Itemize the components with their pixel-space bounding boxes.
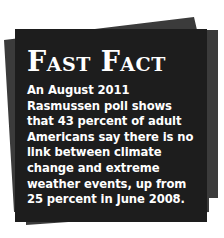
- fast-fact-card: Fast Fact An August 2011 Rasmussen poll …: [15, 29, 207, 222]
- fast-fact-title: Fast Fact: [27, 47, 197, 77]
- fast-fact-text: An August 2011 Rasmussen poll shows that…: [27, 83, 197, 208]
